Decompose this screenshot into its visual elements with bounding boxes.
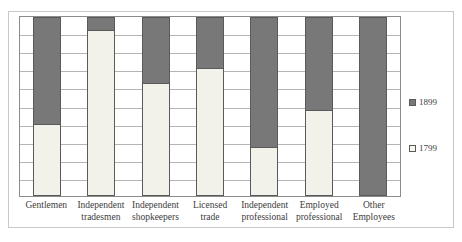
chart-frame: Gentlemen Independent tradesmen Independ… <box>8 11 454 228</box>
plot-area <box>19 16 401 197</box>
bar-segment-1799[interactable] <box>34 124 60 195</box>
x-axis-label-line2: Employees <box>353 212 395 222</box>
stacked-bar[interactable] <box>250 17 278 196</box>
bar-slot <box>183 17 237 196</box>
bar-segment-1899[interactable] <box>88 18 114 30</box>
bar-slot <box>291 17 345 196</box>
stacked-bar[interactable] <box>359 17 387 196</box>
x-axis-label: Employed professional <box>292 200 347 223</box>
x-axis-label-line1: Independent <box>241 200 288 210</box>
stacked-bar[interactable] <box>305 17 333 196</box>
bar-slot <box>74 17 128 196</box>
legend-item-1799[interactable]: 1799 <box>409 143 453 153</box>
bar-slot <box>237 17 291 196</box>
legend-label: 1899 <box>419 97 437 107</box>
bar-slot <box>346 17 400 196</box>
stacked-bar[interactable] <box>142 17 170 196</box>
bar-segment-1899[interactable] <box>197 18 223 68</box>
x-axis-label-line1: Independent <box>132 200 179 210</box>
x-axis-label: Licensed trade <box>183 200 238 223</box>
bar-segment-1899[interactable] <box>360 18 386 195</box>
legend-swatch-icon <box>409 145 416 152</box>
legend-item-1899[interactable]: 1899 <box>409 97 453 107</box>
stacked-bar[interactable] <box>87 17 115 196</box>
bar-slot <box>129 17 183 196</box>
x-axis-label: Other Employees <box>346 200 401 223</box>
bar-segment-1799[interactable] <box>251 147 277 195</box>
x-axis-labels: Gentlemen Independent tradesmen Independ… <box>19 200 401 223</box>
x-axis-label: Gentlemen <box>19 200 74 223</box>
bar-segment-1799[interactable] <box>197 68 223 195</box>
x-axis-label-line1: Employed <box>300 200 339 210</box>
chart-legend: 1899 1799 <box>409 97 453 189</box>
bar-segment-1799[interactable] <box>306 110 332 195</box>
x-axis-label-line2: tradesmen <box>81 212 120 222</box>
stacked-bar[interactable] <box>33 17 61 196</box>
bar-segment-1799[interactable] <box>88 30 114 195</box>
x-axis-label-line2: trade <box>201 212 220 222</box>
bar-segment-1899[interactable] <box>306 18 332 110</box>
legend-swatch-icon <box>409 99 416 106</box>
bar-segment-1899[interactable] <box>34 18 60 124</box>
x-axis-label-line1: Licensed <box>193 200 227 210</box>
legend-label: 1799 <box>419 143 437 153</box>
bar-segment-1799[interactable] <box>143 83 169 195</box>
x-axis-label-line1: Gentlemen <box>25 200 67 210</box>
x-axis-label-line2: shopkeepers <box>132 212 179 222</box>
x-axis-label: Independent shopkeepers <box>128 200 183 223</box>
stacked-bar[interactable] <box>196 17 224 196</box>
x-axis-label: Independent tradesmen <box>74 200 129 223</box>
bar-slot <box>20 17 74 196</box>
bars-layer <box>20 17 400 196</box>
x-axis-label-line2: professional <box>296 212 342 222</box>
x-axis-label-line1: Other <box>363 200 385 210</box>
x-axis-label: Independent professional <box>237 200 292 223</box>
bar-segment-1899[interactable] <box>143 18 169 83</box>
x-axis-label-line2: professional <box>241 212 287 222</box>
bar-segment-1899[interactable] <box>251 18 277 147</box>
x-axis-label-line1: Independent <box>77 200 124 210</box>
